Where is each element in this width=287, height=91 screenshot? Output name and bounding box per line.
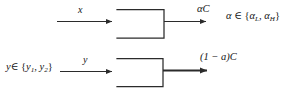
block-bottom	[117, 59, 163, 87]
alpha-domain-label: α ∈ {αL, αH}	[226, 11, 280, 23]
input-label-x: x	[78, 5, 82, 15]
output-label-one-minus-a-c: (1 − a)C	[200, 52, 237, 63]
alpha-domain-member: ∈ {	[232, 10, 250, 21]
capital-c-glyph: C	[203, 3, 210, 14]
output-label-alpha-c: αC	[197, 4, 210, 15]
alpha-domain-close: }	[275, 10, 280, 21]
y-domain-label: y∈ {y1, y2}	[6, 62, 53, 74]
y-domain-close: }	[48, 61, 53, 72]
block-flow-diagram: x y αC α ∈ {αL, αH} y∈ {y1, y2} (1 − a)C	[0, 0, 287, 91]
y-domain-member: ∈ {	[11, 61, 26, 72]
input-label-y: y	[83, 55, 87, 65]
block-top	[117, 10, 164, 39]
